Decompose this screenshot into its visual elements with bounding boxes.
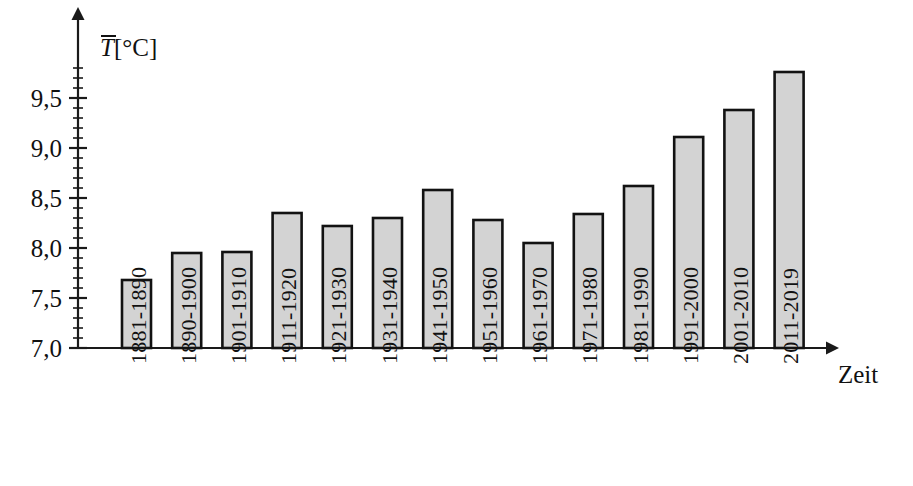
x-tick-label: 1911-1920 xyxy=(276,268,301,364)
bar-chart-canvas: 1881-18901890-19001901-19101911-19201921… xyxy=(0,0,913,486)
x-tick-label: 1921-1930 xyxy=(326,267,351,364)
y-axis-title-text: T[°C] xyxy=(100,34,157,61)
x-tick-label: 1971-1980 xyxy=(577,267,602,364)
chart-figure: 1881-18901890-19001901-19101911-19201921… xyxy=(0,0,913,486)
x-tick-label: 1890-1900 xyxy=(176,267,201,364)
x-tick-label: 1881-1890 xyxy=(126,267,151,364)
y-tick-label: 9,5 xyxy=(31,85,62,112)
x-tick-label: 1991-2000 xyxy=(678,267,703,364)
x-tick-label: 2011-2019 xyxy=(778,268,803,364)
y-tick-label: 8,5 xyxy=(31,185,62,212)
y-tick-label: 7,0 xyxy=(31,335,62,362)
y-axis xyxy=(69,18,87,348)
y-tick-label: 7,5 xyxy=(31,285,62,312)
x-tick-label: 1961-1970 xyxy=(527,267,552,364)
x-tick-label: 1941-1950 xyxy=(427,267,452,364)
y-tick-labels: 7,07,58,08,59,09,5 xyxy=(31,85,62,362)
x-tick-label: 2001-2010 xyxy=(728,267,753,364)
x-tick-label: 1901-1910 xyxy=(226,267,251,364)
x-tick-labels: 1881-18901890-19001901-19101911-19201921… xyxy=(126,267,804,364)
y-axis-title: T[°C] xyxy=(100,34,157,61)
x-tick-label: 1931-1940 xyxy=(377,267,402,364)
x-axis-title: Zeit xyxy=(838,361,878,388)
y-tick-label: 8,0 xyxy=(31,235,62,262)
y-tick-label: 9,0 xyxy=(31,135,62,162)
x-tick-label: 1951-1960 xyxy=(477,267,502,364)
x-tick-label: 1981-1990 xyxy=(628,267,653,364)
